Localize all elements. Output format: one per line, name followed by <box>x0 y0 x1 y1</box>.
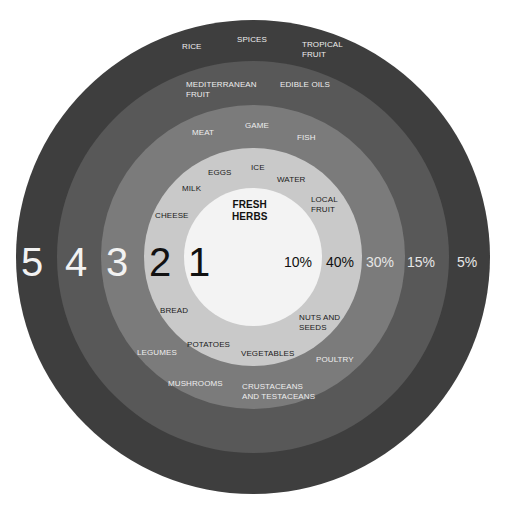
label-cheese: CHEESE <box>155 211 189 221</box>
label-poultry: POULTRY <box>316 355 354 365</box>
level-1: 1 <box>188 242 210 282</box>
label-potatoes: POTATOES <box>187 340 230 350</box>
level-3: 3 <box>106 242 128 282</box>
label-crustaceans: CRUSTACEANS AND TESTACEANS <box>242 382 315 402</box>
label-tropical-fruit: TROPICAL FRUIT <box>302 40 343 60</box>
label-rice: RICE <box>182 42 202 52</box>
label-fish: FISH <box>297 133 316 143</box>
level-2: 2 <box>149 242 171 282</box>
label-spices: SPICES <box>237 35 267 45</box>
label-bread: BREAD <box>160 306 188 316</box>
label-local-fruit: LOCAL FRUIT <box>311 195 338 215</box>
label-mediterranean-fruit: MEDITERRANEAN FRUIT <box>186 80 257 100</box>
label-meat: MEAT <box>192 128 214 138</box>
label-milk: MILK <box>182 184 201 194</box>
label-mushrooms: MUSHROOMS <box>168 379 223 389</box>
label-water: WATER <box>277 175 306 185</box>
concentric-food-diagram: RICE SPICES TROPICAL FRUIT MEDITERRANEAN… <box>0 0 507 519</box>
percent-level-3: 30% <box>366 254 394 270</box>
percent-level-1: 10% <box>284 254 312 270</box>
label-nuts-seeds: NUTS AND SEEDS <box>299 313 340 333</box>
level-5: 5 <box>21 242 43 282</box>
label-edible-oils: EDIBLE OILS <box>280 80 330 90</box>
percent-level-2: 40% <box>326 254 354 270</box>
label-eggs: EGGS <box>208 168 232 178</box>
label-game: GAME <box>245 121 269 131</box>
label-ice: ICE <box>251 163 265 173</box>
label-vegetables: VEGETABLES <box>241 349 294 359</box>
level-4: 4 <box>65 242 87 282</box>
percent-level-5: 5% <box>457 254 477 270</box>
label-fresh-herbs: FRESH HERBS <box>232 199 268 223</box>
label-legumes: LEGUMES <box>137 348 177 358</box>
percent-level-4: 15% <box>407 254 435 270</box>
